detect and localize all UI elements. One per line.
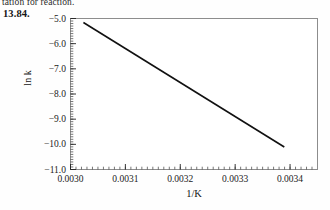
y-tick-label: −8.0 — [49, 89, 66, 99]
page-root: tation for reaction. 13.84. −5.0−6.0−7.0… — [0, 0, 330, 210]
figure-container: −5.0−6.0−7.0−8.0−9.0−10.0−11.0 0.00300.0… — [0, 0, 330, 210]
x-tick-label: 0.0033 — [222, 174, 248, 184]
y-tick-label: −7.0 — [49, 64, 66, 74]
y-tick-label: −10.0 — [44, 139, 66, 149]
y-tick-label: −11.0 — [44, 165, 66, 175]
y-axis-title: ln k — [22, 70, 33, 85]
data-series-group — [83, 22, 284, 147]
x-axis-title: 1/K — [186, 188, 202, 199]
x-tick-label: 0.0030 — [57, 174, 83, 184]
y-tick-label: −6.0 — [49, 39, 66, 49]
minor-tick-marks — [71, 19, 313, 170]
x-tick-label: 0.0034 — [277, 174, 303, 184]
data-series-line-0 — [83, 22, 284, 147]
y-tick-label: −9.0 — [49, 114, 66, 124]
y-tick-label: −5.0 — [49, 14, 66, 24]
major-tick-marks — [71, 19, 291, 170]
x-tick-label: 0.0032 — [167, 174, 193, 184]
x-tick-label: 0.0031 — [112, 174, 138, 184]
